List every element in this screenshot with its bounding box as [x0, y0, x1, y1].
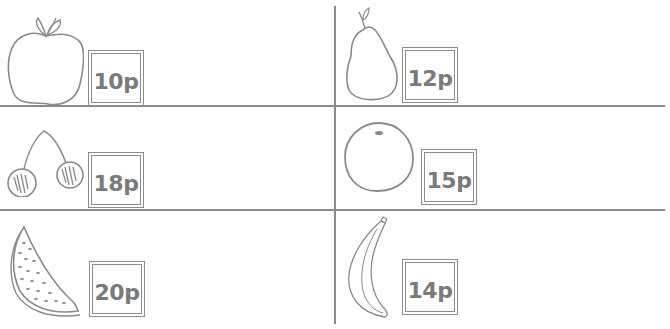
fruit-cell-banana: 14p [335, 211, 670, 329]
fruit-cell-apple: 10p [0, 0, 334, 105]
price-label: 18p [91, 155, 141, 205]
fruit-cell-orange: 15p [335, 107, 670, 209]
fruit-cell-pear: 12p [335, 0, 670, 105]
fruit-cell-watermelon: 20p [0, 211, 334, 329]
pear-icon [341, 6, 401, 102]
fruit-cell-cherries: 18p [0, 107, 334, 209]
price-label: 14p [405, 262, 455, 312]
price-label: 15p [424, 152, 474, 202]
apple-icon [4, 10, 84, 105]
cherries-icon [4, 127, 88, 197]
orange-icon [341, 119, 417, 195]
price-label: 20p [92, 264, 142, 314]
price-tag: 10p [88, 50, 144, 106]
price-tag: 14p [402, 259, 458, 315]
price-label: 12p [405, 50, 455, 100]
price-tag: 18p [88, 152, 144, 208]
watermelon-icon [6, 221, 82, 319]
price-label: 10p [91, 53, 141, 103]
banana-icon [341, 215, 401, 321]
price-tag: 20p [89, 261, 145, 317]
price-tag: 15p [421, 149, 477, 205]
price-tag: 12p [402, 47, 458, 103]
